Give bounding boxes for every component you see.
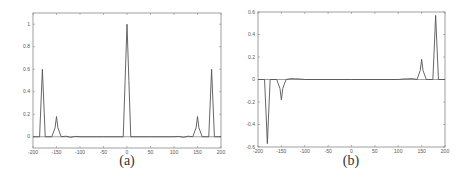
x-tick-label: 50	[372, 148, 378, 154]
data-line	[258, 15, 445, 143]
y-tick-label: 0.4	[23, 88, 30, 94]
y-tick-label: -0.6	[246, 144, 255, 150]
x-tick-label: 200	[217, 149, 226, 155]
y-tick-label: 0.6	[23, 66, 30, 72]
y-tick-label: -0.4	[246, 121, 255, 127]
x-tick-label: -200	[28, 149, 38, 155]
y-tick-label: 1	[27, 21, 30, 27]
y-tick-label: 0	[27, 133, 30, 139]
figure: -200-150-100-5005010015020000.20.40.60.8…	[0, 0, 469, 182]
x-tick-label: -150	[51, 149, 61, 155]
y-tick-label: 0	[252, 76, 255, 82]
y-tick-label: 0.4	[248, 31, 255, 37]
y-tick-label: 0.2	[248, 54, 255, 60]
x-tick-label: 100	[170, 149, 179, 155]
y-tick-label: 0.6	[248, 9, 255, 15]
panel-caption: (b)	[343, 153, 360, 169]
x-tick-label: -100	[75, 149, 85, 155]
x-tick-label: -50	[325, 148, 332, 154]
data-line	[33, 24, 221, 137]
x-tick-label: 200	[441, 148, 450, 154]
x-tick-label: 150	[193, 149, 202, 155]
y-tick-label: 0.8	[23, 43, 30, 49]
y-tick-label: 0.2	[23, 111, 30, 117]
x-tick-label: -150	[276, 148, 286, 154]
panel-a: -200-150-100-5005010015020000.20.40.60.8…	[23, 13, 225, 169]
x-tick-label: 50	[148, 149, 154, 155]
panel-b: -200-150-100-50050100150200-0.6-0.4-0.20…	[246, 9, 449, 169]
panel-caption: (a)	[119, 153, 135, 169]
x-tick-label: -50	[100, 149, 107, 155]
x-tick-label: 100	[394, 148, 403, 154]
x-tick-label: -100	[300, 148, 310, 154]
x-tick-label: 150	[417, 148, 426, 154]
y-tick-label: -0.2	[246, 99, 255, 105]
